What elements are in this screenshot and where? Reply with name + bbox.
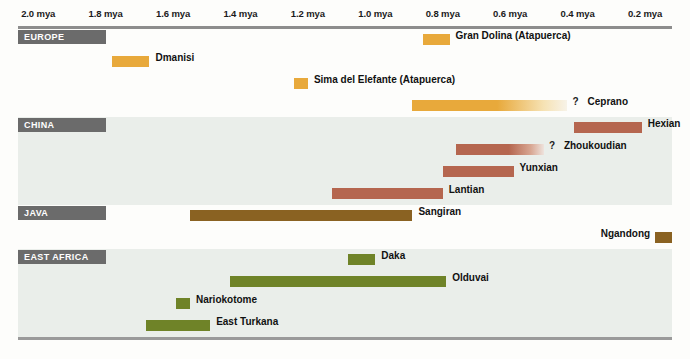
timeline-row: Sima del Elefante (Atapuerca): [18, 73, 672, 95]
axis-tick-1.8: 1.8 mya: [89, 8, 123, 19]
axis-tick-1.2: 1.2 mya: [291, 8, 325, 19]
timeline-bar[interactable]: [574, 122, 641, 133]
axis-tick-1.4: 1.4 mya: [223, 8, 257, 19]
timeline-row: Hexian: [18, 117, 672, 139]
timeline-bar[interactable]: [443, 166, 514, 177]
timeline-row: Dmanisi: [18, 51, 672, 73]
timeline-row: ?Zhoukoudian: [18, 139, 672, 161]
bar-label: East Turkana: [216, 316, 278, 327]
bar-label: Sima del Elefante (Atapuerca): [314, 74, 455, 85]
bar-label: Lantian: [449, 184, 485, 195]
timeline-row: Olduvai: [18, 271, 672, 293]
bar-label: Zhoukoudian: [564, 140, 627, 151]
timeline-bar[interactable]: [190, 210, 412, 221]
axis-tick-0.8: 0.8 mya: [426, 8, 460, 19]
chart-plot-area: EUROPEGran Dolina (Atapuerca)DmanisiSima…: [18, 29, 672, 337]
axis-bottom-rule: [18, 337, 672, 340]
timeline-bar[interactable]: [294, 78, 307, 89]
axis-tick-0.2: 0.2 mya: [628, 8, 662, 19]
timeline-bar[interactable]: [332, 188, 443, 199]
axis-tick-2: 2.0 mya: [21, 8, 55, 19]
bar-label: Hexian: [648, 118, 681, 129]
bar-label: Dmanisi: [155, 52, 194, 63]
bar-label: Gran Dolina (Atapuerca): [456, 30, 571, 41]
timeline-row: Sangiran: [18, 205, 672, 227]
bar-label: Sangiran: [418, 206, 461, 217]
timeline-row: Daka: [18, 249, 672, 271]
bar-label: Nariokotome: [196, 294, 257, 305]
axis-tick-labels: 2.0 mya1.8 mya1.6 mya1.4 mya1.2 mya1.0 m…: [0, 8, 690, 24]
timeline-row: Yunxian: [18, 161, 672, 183]
axis-tick-0.6: 0.6 mya: [493, 8, 527, 19]
timeline-bar[interactable]: [112, 56, 149, 67]
timeline-row: East Turkana: [18, 315, 672, 337]
timeline-bar[interactable]: [146, 320, 210, 331]
timeline-bar[interactable]: [456, 144, 544, 155]
bar-label: Daka: [381, 250, 405, 261]
timeline-bar[interactable]: [176, 298, 189, 309]
axis-tick-0.4: 0.4 mya: [561, 8, 595, 19]
uncertainty-marker: ?: [549, 140, 555, 151]
timeline-row: Lantian: [18, 183, 672, 205]
timeline-bar[interactable]: [230, 276, 446, 287]
bar-label: Yunxian: [520, 162, 558, 173]
timeline-bar[interactable]: [412, 100, 567, 111]
timeline-row: Ngandong: [18, 227, 672, 249]
timeline-bar[interactable]: [348, 254, 375, 265]
uncertainty-marker: ?: [572, 96, 578, 107]
axis-tick-1: 1.0 mya: [358, 8, 392, 19]
timeline-row: Gran Dolina (Atapuerca): [18, 29, 672, 51]
fossil-timeline-chart: 2.0 mya1.8 mya1.6 mya1.4 mya1.2 mya1.0 m…: [0, 0, 690, 359]
bar-label: Ceprano: [587, 96, 628, 107]
timeline-row: Nariokotome: [18, 293, 672, 315]
bar-label: Olduvai: [452, 272, 489, 283]
timeline-bar[interactable]: [423, 34, 450, 45]
timeline-row: ?Ceprano: [18, 95, 672, 117]
timeline-bar[interactable]: [655, 232, 672, 243]
bar-label: Ngandong: [601, 228, 650, 239]
axis-tick-1.6: 1.6 mya: [156, 8, 190, 19]
